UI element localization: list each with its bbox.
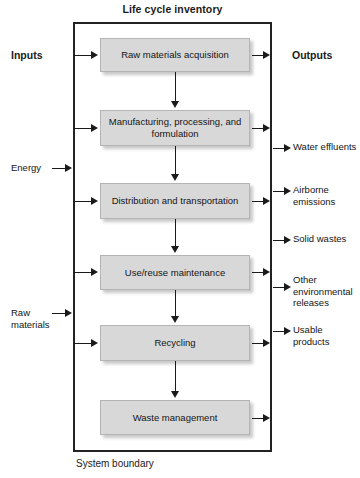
output-label-airborne-emissions: Airborne emissions (293, 184, 359, 207)
flow-connector-line (175, 361, 176, 392)
input-arrow-right-icon (91, 339, 98, 347)
output-arrow-right-icon (263, 339, 270, 347)
input-arrow-right-icon (91, 197, 98, 205)
output-label-arrow-right-icon (284, 327, 291, 335)
process-box-use-reuse[interactable]: Use/reuse maintenance (100, 255, 250, 290)
flow-connector-line (175, 72, 176, 102)
input-label-arrow-right-icon (65, 309, 72, 317)
input-arrow-line (74, 128, 92, 129)
flow-arrow-down-icon (171, 391, 179, 398)
diagram-canvas: Life cycle inventory System boundary Inp… (0, 0, 360, 478)
output-label-arrow-right-icon (284, 283, 291, 291)
flow-connector-line (175, 219, 176, 247)
flow-connector-line (175, 290, 176, 317)
flow-connector-line (175, 146, 176, 175)
output-label-solid-wastes: Solid wastes (293, 233, 359, 245)
input-arrow-right-icon (91, 268, 98, 276)
output-label-arrow-right-icon (284, 236, 291, 244)
flow-arrow-down-icon (171, 174, 179, 181)
output-arrow-right-icon (263, 197, 270, 205)
input-arrow-line (74, 272, 92, 273)
process-box-waste-management[interactable]: Waste management (100, 400, 250, 435)
process-box-recycling[interactable]: Recycling (100, 325, 250, 361)
input-label-arrow-line (52, 313, 66, 314)
input-label-energy: Energy (11, 162, 41, 174)
output-arrow-right-icon (263, 124, 270, 132)
input-label-arrow-right-icon (65, 164, 72, 172)
flow-arrow-down-icon (171, 101, 179, 108)
output-label-arrow-right-icon (284, 187, 291, 195)
process-box-distribution[interactable]: Distribution and transportation (100, 183, 250, 219)
outputs-header: Outputs (292, 49, 332, 61)
process-box-manufacturing[interactable]: Manufacturing, processing, and formulati… (100, 110, 250, 146)
output-arrow-right-icon (263, 268, 270, 276)
process-box-label: Manufacturing, processing, and formulati… (101, 116, 249, 140)
process-box-label: Recycling (154, 337, 195, 349)
input-label-raw-materials: Raw materials (11, 307, 59, 330)
input-arrow-right-icon (91, 124, 98, 132)
output-label-arrow-right-icon (284, 144, 291, 152)
inputs-header: Inputs (11, 49, 43, 61)
process-box-label: Waste management (133, 412, 218, 424)
output-label-usable-products: Usable products (293, 324, 359, 347)
output-label-water-effluents: Water effluents (293, 141, 359, 153)
flow-arrow-down-icon (171, 246, 179, 253)
input-arrow-right-icon (91, 51, 98, 59)
page-title: Life cycle inventory (73, 3, 272, 15)
system-boundary-caption: System boundary (76, 458, 154, 469)
output-arrow-right-icon (263, 51, 270, 59)
input-arrow-line (74, 201, 92, 202)
process-box-raw-materials-acquisition[interactable]: Raw materials acquisition (100, 38, 250, 72)
process-box-label: Distribution and transportation (112, 195, 239, 207)
process-box-label: Use/reuse maintenance (125, 267, 225, 279)
output-label-other-environmental-releases: Other environmental releases (293, 274, 359, 309)
system-boundary-box (73, 22, 272, 452)
input-arrow-line (74, 343, 92, 344)
flow-arrow-down-icon (171, 316, 179, 323)
input-arrow-line (74, 55, 92, 56)
output-arrow-right-icon (263, 414, 270, 422)
process-box-label: Raw materials acquisition (121, 49, 229, 61)
input-label-arrow-line (52, 168, 66, 169)
